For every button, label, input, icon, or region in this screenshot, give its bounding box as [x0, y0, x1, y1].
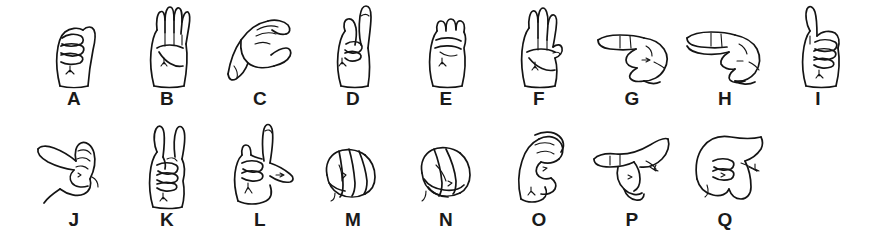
sign-label-l: L: [212, 209, 308, 231]
asl-hand-i-icon: [770, 0, 866, 92]
sign-label-a: A: [26, 88, 122, 110]
asl-hand-k-icon: [119, 121, 215, 213]
sign-label-q: Q: [677, 209, 773, 231]
asl-row-2: J K: [0, 121, 878, 242]
sign-cell-a[interactable]: A: [26, 0, 122, 121]
sign-cell-m[interactable]: M: [305, 121, 401, 242]
sign-label-f: F: [491, 88, 587, 110]
asl-hand-o-icon: [491, 121, 587, 213]
sign-cell-n[interactable]: N: [398, 121, 494, 242]
sign-cell-e[interactable]: E: [398, 0, 494, 121]
sign-cell-b[interactable]: B: [119, 0, 215, 121]
asl-hand-j-icon: [26, 121, 122, 213]
sign-label-h: H: [677, 88, 773, 110]
sign-cell-q[interactable]: Q: [677, 121, 773, 242]
asl-hand-q-icon: [677, 121, 773, 213]
sign-cell-k[interactable]: K: [119, 121, 215, 242]
asl-hand-c-icon: [212, 0, 308, 92]
sign-label-m: M: [305, 209, 401, 231]
asl-hand-l-icon: [212, 121, 308, 213]
sign-label-d: D: [305, 88, 401, 110]
sign-label-g: G: [584, 88, 680, 110]
sign-label-p: P: [584, 209, 680, 231]
sign-cell-j[interactable]: J: [26, 121, 122, 242]
asl-hand-n-icon: [398, 121, 494, 213]
asl-hand-g-icon: [584, 0, 680, 92]
asl-hand-m-icon: [305, 121, 401, 213]
asl-hand-f-icon: [491, 0, 587, 92]
sign-cell-f[interactable]: F: [491, 0, 587, 121]
sign-cell-o[interactable]: O: [491, 121, 587, 242]
sign-label-o: O: [491, 209, 587, 231]
sign-label-j: J: [26, 209, 122, 231]
asl-hand-a-icon: [26, 0, 122, 92]
sign-label-c: C: [212, 88, 308, 110]
sign-label-e: E: [398, 88, 494, 110]
asl-hand-h-icon: [677, 0, 773, 92]
asl-row-1: A B: [0, 0, 878, 121]
sign-label-k: K: [119, 209, 215, 231]
asl-hand-d-icon: [305, 0, 401, 92]
asl-alphabet-chart: A B: [0, 0, 878, 242]
sign-cell-p[interactable]: P: [584, 121, 680, 242]
sign-label-b: B: [119, 88, 215, 110]
sign-cell-l[interactable]: L: [212, 121, 308, 242]
sign-cell-i[interactable]: I: [770, 0, 866, 121]
asl-hand-p-icon: [584, 121, 680, 213]
sign-label-n: N: [398, 209, 494, 231]
sign-cell-h[interactable]: H: [677, 0, 773, 121]
sign-cell-d[interactable]: D: [305, 0, 401, 121]
asl-hand-e-icon: [398, 0, 494, 92]
sign-cell-g[interactable]: G: [584, 0, 680, 121]
asl-hand-b-icon: [119, 0, 215, 92]
sign-label-i: I: [770, 88, 866, 110]
sign-cell-c[interactable]: C: [212, 0, 308, 121]
